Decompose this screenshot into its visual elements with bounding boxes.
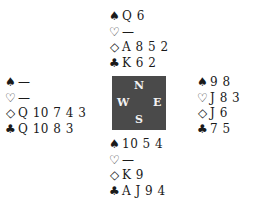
west-hand: ♠ — ♡ — ◇ Q 10 7 4 3 ♣ Q 10 8 3 [4, 75, 86, 137]
diamond-icon: ◇ [108, 168, 121, 184]
west-spades-row: ♠ — [4, 75, 86, 91]
club-icon: ♣ [108, 184, 121, 200]
south-diamonds: K 9 [122, 168, 144, 184]
compass-south: S [135, 113, 143, 126]
heart-icon: ♡ [4, 91, 17, 107]
south-spades: 10 5 4 [122, 137, 163, 153]
south-clubs-row: ♣ A J 9 4 [108, 184, 166, 200]
spade-icon: ♠ [196, 75, 209, 91]
club-icon: ♣ [4, 122, 17, 138]
west-hearts-row: ♡ — [4, 91, 86, 107]
compass-east: E [153, 96, 161, 109]
north-clubs-row: ♣ K 6 2 [108, 56, 169, 72]
south-hearts: — [122, 153, 135, 169]
compass-box: N W E S [112, 76, 166, 130]
north-diamonds: A 8 5 2 [122, 40, 169, 56]
spade-icon: ♠ [108, 137, 121, 153]
east-spades: 9 8 [210, 75, 231, 91]
west-spades: — [18, 75, 31, 91]
east-hearts: J 8 3 [210, 91, 240, 107]
compass-north: N [134, 79, 144, 92]
north-clubs: K 6 2 [122, 56, 156, 72]
south-diamonds-row: ◇ K 9 [108, 168, 166, 184]
east-diamonds: J 6 [210, 106, 228, 122]
east-diamonds-row: ◇ J 6 [196, 106, 240, 122]
east-hearts-row: ♡ J 8 3 [196, 91, 240, 107]
spade-icon: ♠ [4, 75, 17, 91]
west-diamonds: Q 10 7 4 3 [18, 106, 86, 122]
south-spades-row: ♠ 10 5 4 [108, 137, 166, 153]
diamond-icon: ◇ [196, 106, 209, 122]
west-clubs-row: ♣ Q 10 8 3 [4, 122, 86, 138]
north-hearts-row: ♡ — [108, 25, 169, 41]
spade-icon: ♠ [108, 9, 121, 25]
north-hearts: — [122, 25, 135, 41]
west-hearts: — [18, 91, 31, 107]
diamond-icon: ◇ [108, 40, 121, 56]
heart-icon: ♡ [108, 25, 121, 41]
club-icon: ♣ [196, 122, 209, 138]
south-clubs: A J 9 4 [122, 184, 166, 200]
club-icon: ♣ [108, 56, 121, 72]
east-clubs: 7 5 [210, 122, 231, 138]
heart-icon: ♡ [196, 91, 209, 107]
south-hearts-row: ♡ — [108, 153, 166, 169]
north-diamonds-row: ◇ A 8 5 2 [108, 40, 169, 56]
west-clubs: Q 10 8 3 [18, 122, 74, 138]
east-spades-row: ♠ 9 8 [196, 75, 240, 91]
north-spades-row: ♠ Q 6 [108, 9, 169, 25]
north-spades: Q 6 [122, 9, 145, 25]
east-clubs-row: ♣ 7 5 [196, 122, 240, 138]
east-hand: ♠ 9 8 ♡ J 8 3 ◇ J 6 ♣ 7 5 [196, 75, 240, 137]
diamond-icon: ◇ [4, 106, 17, 122]
west-diamonds-row: ◇ Q 10 7 4 3 [4, 106, 86, 122]
heart-icon: ♡ [108, 153, 121, 169]
north-hand: ♠ Q 6 ♡ — ◇ A 8 5 2 ♣ K 6 2 [108, 9, 169, 71]
compass-west: W [117, 96, 129, 109]
south-hand: ♠ 10 5 4 ♡ — ◇ K 9 ♣ A J 9 4 [108, 137, 166, 199]
